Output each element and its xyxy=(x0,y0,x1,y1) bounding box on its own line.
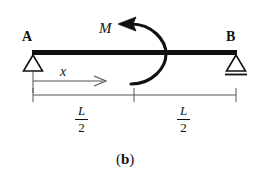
right-span-denominator: 2 xyxy=(177,120,190,135)
left-span-numerator: L xyxy=(75,104,88,119)
caption-close-paren: ) xyxy=(129,151,134,167)
left-span-dimension-label: L 2 xyxy=(75,104,88,134)
x-dimension-label: x xyxy=(60,65,66,79)
moment-label: M xyxy=(99,21,112,36)
right-span-dimension-label: L 2 xyxy=(177,104,190,134)
support-label-b: B xyxy=(226,30,235,44)
support-label-a: A xyxy=(22,30,32,44)
pin-support-triangle-a xyxy=(24,55,43,71)
right-span-numerator: L xyxy=(177,104,190,119)
left-span-denominator: 2 xyxy=(75,120,88,135)
beam-member xyxy=(32,50,237,55)
roller-support-triangle-b xyxy=(227,55,246,71)
beam-diagram-figure: A B M x L 2 L 2 (b) xyxy=(0,0,265,181)
moment-arrowhead xyxy=(118,17,136,31)
figure-caption: (b) xyxy=(116,152,134,167)
